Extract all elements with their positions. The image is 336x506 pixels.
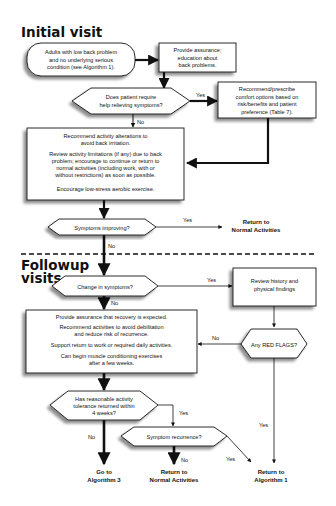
svg-text:Review activity limitations (i: Review activity limitations (if any) due… [49, 151, 162, 157]
svg-text:Has reasonable activity: Has reasonable activity [75, 396, 133, 402]
edge-label-improving-yes: Yes [183, 217, 192, 223]
edge-label-relief-yes: Yes [196, 92, 205, 98]
svg-text:Support return to work or requ: Support return to work or required daily… [51, 342, 173, 348]
svg-text:Change in symptoms?: Change in symptoms? [77, 284, 133, 290]
svg-text:condition (see Algorithm 1).: condition (see Algorithm 1). [47, 64, 115, 70]
node-start: Adults with low back problem and no unde… [27, 43, 135, 76]
svg-text:Algorithm 1: Algorithm 1 [254, 477, 288, 483]
svg-text:Adults with low back problem: Adults with low back problem [45, 49, 117, 55]
svg-text:comfort options based on: comfort options based on [236, 94, 299, 100]
svg-text:without restrictions) as soon: without restrictions) as soon as possibl… [54, 172, 156, 178]
svg-text:back problems.: back problems. [179, 62, 217, 68]
decision-symptoms-improving: Symptoms improving? [48, 219, 156, 235]
svg-text:Algorithm 3: Algorithm 3 [87, 477, 121, 483]
decision-relief: Does patient require help relieving symp… [72, 88, 190, 114]
svg-text:physical findings: physical findings [254, 286, 295, 292]
svg-text:Provide assurance;: Provide assurance; [174, 47, 222, 53]
edge-label-improving-no: No [108, 243, 115, 249]
node-assurance: Provide assurance; education about back … [159, 43, 236, 72]
edge-label-recurrence-no: No [181, 457, 188, 463]
svg-text:Encourage low-stress aerobic e: Encourage low-stress aerobic exercise. [57, 186, 155, 192]
svg-text:normal activities (including w: normal activities (including work, with … [56, 165, 155, 171]
edge-label-tolerance-no: No [88, 434, 95, 440]
terminal-return-normal-2: Return to Normal Activities [150, 469, 199, 483]
svg-text:Does patient require: Does patient require [106, 94, 156, 100]
edge-label-change-no: No [111, 300, 118, 306]
svg-text:and reduce risk of recurrence.: and reduce risk of recurrence. [74, 331, 149, 337]
svg-text:avoid back irritation.: avoid back irritation. [81, 140, 131, 146]
svg-text:and no underlying serious: and no underlying serious [49, 57, 113, 63]
decision-change-in-symptoms: Change in symptoms? [52, 276, 158, 296]
svg-text:Return to: Return to [161, 469, 188, 475]
edge-label-redflags-no: No [212, 335, 219, 341]
svg-text:4 weeks?: 4 weeks? [92, 410, 116, 416]
edge-label-change-yes: Yes [207, 277, 216, 283]
svg-text:risk/benefits and patient: risk/benefits and patient [237, 101, 297, 107]
svg-text:help relieving symptoms?: help relieving symptoms? [99, 102, 162, 108]
svg-text:after a few weeks.: after a few weeks. [89, 360, 135, 366]
svg-text:Return to: Return to [258, 469, 285, 475]
svg-text:preference (Table 7).: preference (Table 7). [241, 109, 293, 115]
terminal-return-normal-1: Return to Normal Activities [232, 219, 281, 233]
terminal-go-algorithm-3: Go to Algorithm 3 [87, 469, 121, 483]
node-review-history: Review history and physical findings [233, 268, 316, 306]
edge-label-relief-no: No [137, 119, 144, 125]
node-activity-recommendations: Recommend activity alterations to avoid … [27, 128, 184, 200]
decision-symptom-recurrence: Symptom recurrence? [121, 427, 227, 446]
svg-text:Symptoms improving?: Symptoms improving? [74, 225, 129, 231]
decision-red-flags: Any RED FLAGS? [241, 329, 307, 358]
svg-text:education about: education about [178, 55, 218, 61]
svg-text:Recommend/prescribe: Recommend/prescribe [239, 86, 295, 92]
svg-text:Normal Activities: Normal Activities [150, 477, 199, 483]
svg-text:Review history and: Review history and [251, 278, 298, 284]
edge-label-tolerance-yes: Yes [179, 410, 188, 416]
node-comfort: Recommend/prescribe comfort options base… [218, 82, 316, 118]
svg-text:Can begin muscle conditioning: Can begin muscle conditioning exercises [61, 353, 163, 359]
svg-text:Symptom recurrence?: Symptom recurrence? [146, 434, 201, 440]
section-title-initial: Initial visit [21, 24, 103, 40]
svg-text:problem; encourage to continue: problem; encourage to continue or return… [52, 158, 160, 164]
svg-text:Recommend activity alterations: Recommend activity alterations to [64, 133, 148, 139]
terminal-return-algorithm-1: Return to Algorithm 1 [254, 469, 288, 483]
decision-activity-tolerance: Has reasonable activity tolerance return… [50, 391, 158, 420]
edge-label-redflags-yes: Yes [259, 422, 268, 428]
svg-text:Normal Activities: Normal Activities [232, 227, 281, 233]
svg-text:Provide assurance that recover: Provide assurance that recovery is expec… [56, 314, 168, 320]
svg-text:Recommend activities to avoid: Recommend activities to avoid debilitati… [59, 324, 163, 330]
svg-text:Go to: Go to [96, 469, 112, 475]
node-followup-recommendations: Provide assurance that recovery is expec… [26, 310, 197, 373]
svg-text:Any RED FLAGS?: Any RED FLAGS? [251, 342, 297, 348]
svg-text:Return to: Return to [243, 219, 270, 225]
svg-text:tolerance returned within: tolerance returned within [73, 403, 134, 409]
flowchart: Initial visit Followup visits [0, 0, 336, 506]
edge-label-recurrence-yes: Yes [226, 456, 235, 462]
